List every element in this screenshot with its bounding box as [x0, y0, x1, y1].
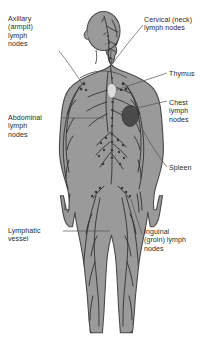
label-cervical-lymph-nodes[interactable]: Cervical (neck) lymph nodes — [144, 16, 206, 33]
label-axillary-lymph-nodes[interactable]: Axillary (armpit) lymph nodes — [8, 15, 68, 48]
label-spleen[interactable]: Spleen — [169, 164, 207, 172]
label-lymphatic-vessel[interactable]: Lymphatic vessel — [8, 227, 70, 244]
label-chest-lymph-nodes[interactable]: Chest lymph nodes — [169, 99, 207, 124]
lymphatic-system-diagram — [0, 0, 207, 348]
label-abdominal-lymph-nodes[interactable]: Abdominal lymph nodes — [8, 114, 70, 139]
thymus-organ — [107, 84, 116, 98]
label-inguinal-lymph-nodes[interactable]: Inguinal (groin) lymph nodes — [144, 228, 206, 253]
label-thymus[interactable]: Thymus — [169, 70, 207, 78]
leader-axillary — [59, 51, 83, 85]
